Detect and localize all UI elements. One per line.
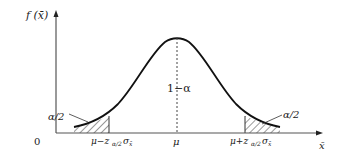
y-axis-label: f (x̄) [25, 9, 48, 22]
center-region-label: 1−α [167, 82, 191, 95]
y-axis-arrow-icon [54, 10, 59, 17]
normal-distribution-diagram: f (x̄) 0 x̄ μ 1−α α/2 α/2 μ−z α/2 σ x̄ μ… [0, 0, 342, 156]
svg-text:x̄: x̄ [129, 140, 133, 147]
left-bound-label: μ−z α/2 σ x̄ [91, 136, 133, 147]
right-bound-label: μ+z α/2 σ x̄ [230, 136, 272, 147]
mean-label: μ [173, 136, 180, 147]
svg-text:μ−z: μ−z [91, 136, 109, 146]
origin-label: 0 [34, 136, 40, 147]
x-axis-arrow-icon [316, 131, 323, 136]
svg-text:α/2: α/2 [251, 140, 261, 147]
svg-text:x̄: x̄ [268, 140, 272, 147]
svg-text:μ+z: μ+z [230, 136, 248, 146]
right-tail-label: α/2 [283, 109, 299, 120]
svg-text:α/2: α/2 [112, 140, 122, 147]
left-tail-label: α/2 [48, 111, 64, 122]
x-axis-label: x̄ [319, 140, 325, 151]
